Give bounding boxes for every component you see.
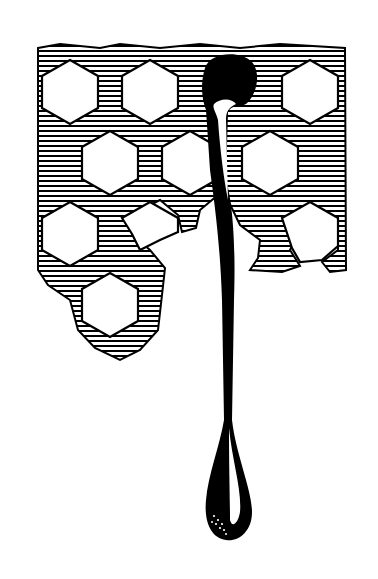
honeycomb bbox=[38, 44, 346, 360]
illustration: Honeycomb with dripping drop bbox=[0, 0, 378, 579]
honeycomb-drip-artwork bbox=[0, 0, 378, 579]
